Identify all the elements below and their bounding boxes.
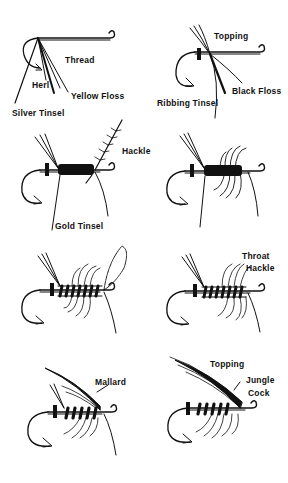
label-ribbing-tinsel: Ribbing Tinsel: [157, 98, 218, 108]
jungle-cock-pointer: [234, 382, 240, 390]
panel-4-fly: [167, 133, 265, 227]
panel-8-fly: [168, 357, 257, 443]
label-thread: Thread: [65, 55, 95, 65]
label-black-floss: Black Floss: [232, 86, 281, 96]
fly-tying-diagram: Thread Herl Yellow Floss Silver Tinsel T…: [0, 0, 288, 483]
label-mallard: Mallard: [95, 377, 126, 387]
label-topping-2: Topping: [210, 359, 244, 369]
label-herl: Herl: [32, 80, 49, 90]
label-yellow-floss: Yellow Floss: [71, 91, 124, 101]
label-topping: Topping: [214, 31, 248, 41]
label-gold-tinsel: Gold Tinsel: [55, 221, 103, 231]
label-throat: Throat: [242, 251, 270, 261]
label-jungle: Jungle: [246, 375, 275, 385]
panel-3-fly: [22, 120, 122, 230]
fly-illustrations: [0, 0, 288, 483]
label-throat-hackle: Hackle: [246, 263, 275, 273]
panel-5-fly: [22, 246, 127, 333]
label-hackle: Hackle: [122, 146, 151, 156]
label-silver-tinsel: Silver Tinsel: [12, 108, 65, 118]
label-cock: Cock: [248, 388, 270, 398]
